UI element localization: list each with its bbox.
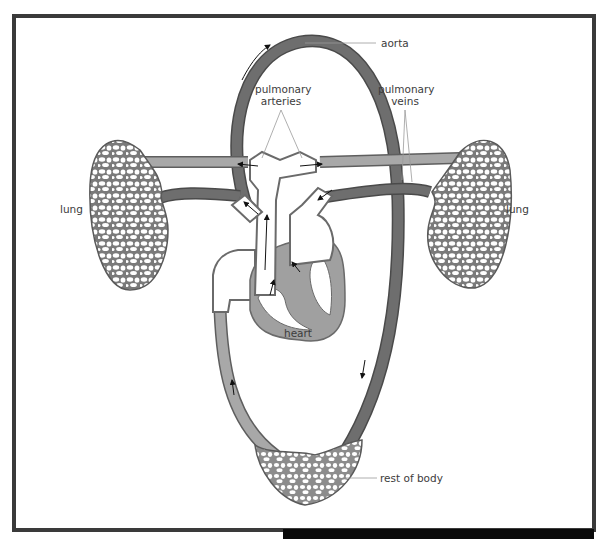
label-pulmonary-veins-line2: veins [378, 95, 432, 107]
label-heart: heart [284, 327, 312, 339]
label-pulmonary-arteries-line2: arteries [255, 95, 307, 107]
flow-arrow-icon [362, 360, 365, 378]
label-pulmonary-arteries: pulmonary arteries [255, 83, 307, 107]
pulmonary-veins-vessel [160, 189, 430, 198]
label-lung-right: lung [506, 203, 529, 215]
heart [213, 152, 345, 341]
label-rest-of-body: rest of body [380, 472, 443, 484]
label-lung-left: lung [60, 203, 83, 215]
circulation-diagram [0, 0, 603, 539]
label-pulmonary-arteries-line1: pulmonary [255, 83, 307, 95]
label-pulmonary-veins-line1: pulmonary [378, 83, 432, 95]
label-pulmonary-veins: pulmonary veins [378, 83, 432, 107]
label-aorta: aorta [381, 37, 409, 49]
